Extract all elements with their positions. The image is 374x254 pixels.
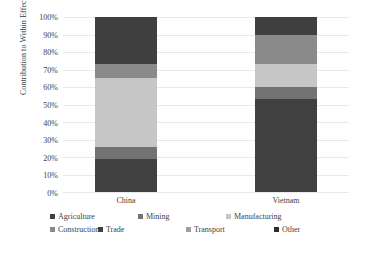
chart-legend: AgricultureMiningManufacturingConstructi…	[50, 210, 360, 236]
bar-segment-trade[interactable]	[255, 17, 317, 35]
y-tick-label: 80%	[43, 48, 58, 57]
legend-item-agriculture[interactable]: Agriculture	[50, 210, 134, 223]
legend-item-construction[interactable]: Construction	[50, 223, 94, 236]
bar-segment-construction[interactable]	[255, 35, 317, 65]
legend-swatch-icon	[50, 227, 55, 232]
gridline: 0%	[63, 192, 349, 193]
bar-segment-mining[interactable]	[95, 147, 157, 159]
bar-segment-manufacturing[interactable]	[255, 64, 317, 87]
y-tick-label: 60%	[43, 83, 58, 92]
legend-label: Construction	[58, 224, 99, 236]
legend-item-mining[interactable]: Mining	[138, 210, 222, 223]
legend-label: Other	[282, 224, 300, 236]
y-tick-label: 10%	[43, 171, 58, 180]
category-label-china: China	[95, 196, 157, 205]
legend-item-other[interactable]: Other	[274, 223, 334, 236]
legend-label: Trade	[106, 224, 124, 236]
legend-item-trade[interactable]: Trade	[98, 223, 182, 236]
legend-item-manufacturing[interactable]: Manufacturing	[226, 210, 314, 223]
bar-segment-trade[interactable]	[95, 17, 157, 64]
y-tick-label: 50%	[43, 101, 58, 110]
bar-vietnam[interactable]	[255, 17, 317, 192]
bar-segment-mining[interactable]	[255, 87, 317, 99]
legend-swatch-icon	[186, 227, 191, 232]
y-tick-label: 0%	[47, 189, 58, 198]
y-tick-label: 90%	[43, 30, 58, 39]
legend-swatch-icon	[226, 214, 231, 219]
legend-swatch-icon	[274, 227, 279, 232]
legend-label: Agriculture	[58, 211, 95, 223]
legend-label: Mining	[146, 211, 170, 223]
category-label-vietnam: Vietnam	[255, 196, 317, 205]
y-tick-label: 100%	[39, 13, 58, 22]
legend-item-transport[interactable]: Transport	[186, 223, 270, 236]
y-tick-label: 20%	[43, 153, 58, 162]
y-tick-label: 40%	[43, 118, 58, 127]
y-tick-label: 70%	[43, 65, 58, 74]
legend-swatch-icon	[50, 214, 55, 219]
bar-segment-construction[interactable]	[95, 64, 157, 78]
legend-swatch-icon	[98, 227, 103, 232]
plot-area: 100%90%80%70%60%50%40%30%20%10%0% China …	[63, 17, 349, 192]
legend-swatch-icon	[138, 214, 143, 219]
y-tick-label: 30%	[43, 136, 58, 145]
bar-segment-manufacturing[interactable]	[95, 78, 157, 146]
legend-label: Transport	[194, 224, 225, 236]
bar-segment-agriculture[interactable]	[95, 159, 157, 192]
bar-china[interactable]	[95, 17, 157, 192]
stacked-bar-chart: Contribution to Within Effect 100%90%80%…	[0, 0, 374, 254]
legend-label: Manufacturing	[234, 211, 282, 223]
y-axis-title: Contribution to Within Effect	[19, 0, 28, 122]
bar-segment-agriculture[interactable]	[255, 99, 317, 192]
